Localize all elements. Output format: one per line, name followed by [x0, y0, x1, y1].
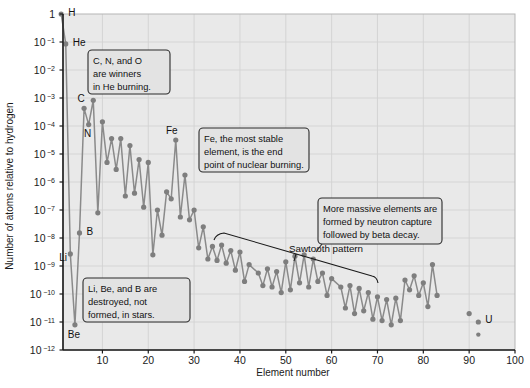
annotation-line: in He burning. [93, 82, 151, 92]
x-tick-label: 20 [142, 354, 154, 366]
data-point-marker [81, 106, 86, 111]
data-point-marker [178, 214, 183, 219]
data-point-marker [343, 305, 348, 310]
data-point-marker [430, 262, 435, 267]
data-point-marker [141, 205, 146, 210]
svg-text:10: 10 [30, 288, 42, 300]
data-point-marker [297, 280, 302, 285]
svg-text:−1: −1 [47, 37, 55, 44]
x-axis-label: Element number [256, 367, 330, 378]
x-tick-label: 40 [234, 354, 246, 366]
x-tick-label: 90 [463, 354, 475, 366]
svg-text:10: 10 [34, 260, 46, 272]
neutron-capture-annotation: More massive elements areformed by neutr… [316, 198, 442, 252]
annotation-line: Fe, the most stable [204, 134, 283, 144]
data-point-marker [329, 276, 334, 281]
svg-text:−6: −6 [47, 177, 55, 184]
iron-annotation: Fe, the most stableelement, is the endpo… [199, 128, 309, 172]
annotation-line: formed by neutron capture [323, 217, 432, 227]
data-point-marker [393, 296, 398, 301]
data-point-marker [118, 136, 123, 141]
data-point-marker [224, 261, 229, 266]
x-tick-label: 10 [97, 354, 109, 366]
data-point-marker [412, 273, 417, 278]
data-point-marker [91, 98, 96, 103]
y-tick-label: 1 [49, 8, 55, 20]
data-point-marker [155, 207, 160, 212]
x-tick-label: 70 [372, 354, 384, 366]
element-label-c: C [77, 93, 84, 104]
svg-text:−8: −8 [47, 233, 55, 240]
annotation-line: element, is the end [204, 147, 283, 157]
data-point-marker [315, 279, 320, 284]
sawtooth-callout-label: Sawtooth pattern [289, 243, 363, 254]
data-point-marker [352, 311, 357, 316]
data-point-marker [366, 290, 371, 295]
svg-text:10: 10 [30, 344, 42, 356]
data-point-marker [210, 244, 215, 249]
element-label-be: Be [68, 329, 81, 340]
data-point-marker [173, 137, 178, 142]
x-tick-label: 60 [326, 354, 338, 366]
annotation-line: C, N, and O [93, 56, 142, 66]
data-point-marker [361, 308, 366, 313]
data-point-marker [187, 217, 192, 222]
svg-text:−2: −2 [47, 65, 55, 72]
data-point-marker [237, 249, 242, 254]
data-point-marker [146, 160, 151, 165]
data-point-marker [402, 277, 407, 282]
data-point-marker [379, 318, 384, 323]
cno-annotation: C, N, and Oare winnersin He burning. [88, 50, 170, 94]
data-point-marker [416, 293, 421, 298]
data-point-marker [407, 287, 412, 292]
svg-text:10: 10 [34, 92, 46, 104]
x-tick-label: 100 [506, 354, 524, 366]
data-point-marker [274, 269, 279, 274]
x-tick-label: 50 [280, 354, 292, 366]
annotation-line: followed by beta decay. [323, 230, 419, 240]
annotation-line: destroyed, not [88, 297, 147, 307]
data-point-marker [265, 266, 270, 271]
element-label-n: N [84, 128, 91, 139]
data-point-marker [260, 283, 265, 288]
svg-text:−10: −10 [43, 289, 55, 296]
data-point-marker [169, 196, 174, 201]
data-point-marker [159, 233, 164, 238]
svg-text:10: 10 [34, 148, 46, 160]
data-point-marker [306, 284, 311, 289]
data-point-marker [95, 210, 100, 215]
data-point-marker [288, 287, 293, 292]
svg-text:−12: −12 [43, 345, 55, 352]
data-point-marker [256, 270, 261, 275]
data-point-marker [104, 160, 109, 165]
annotation-line: point of nuclear burning. [204, 160, 304, 170]
data-point-marker [247, 262, 252, 267]
svg-text:10: 10 [34, 204, 46, 216]
svg-text:−4: −4 [47, 121, 55, 128]
data-point-marker [100, 119, 105, 124]
data-point-marker [192, 207, 197, 212]
svg-text:10: 10 [30, 316, 42, 328]
data-point-marker [269, 284, 274, 289]
data-point-marker [150, 252, 155, 257]
data-point-marker [389, 322, 394, 327]
data-point-marker [476, 332, 480, 336]
element-label-h: H [68, 7, 75, 18]
data-point-marker [425, 304, 430, 309]
chart-canvas: 102030405060708090100 1−110−210−310−410−… [0, 0, 530, 388]
element-label-li: Li [59, 252, 67, 263]
data-point-marker [68, 251, 73, 256]
abundance-chart-figure: 102030405060708090100 1−110−210−310−410−… [0, 0, 530, 388]
data-point-marker [72, 322, 77, 327]
data-point-marker [219, 242, 224, 247]
data-point-marker [324, 293, 329, 298]
annotation-line: are winners [93, 69, 141, 79]
annotation-line: Li, Be, and B are [88, 284, 157, 294]
data-point-marker [476, 319, 481, 324]
data-point-marker [132, 191, 137, 196]
element-label-he: He [73, 37, 86, 48]
element-label-u: U [485, 314, 492, 325]
data-point-marker [123, 193, 128, 198]
data-point-marker [320, 270, 325, 275]
data-point-marker [86, 122, 91, 127]
